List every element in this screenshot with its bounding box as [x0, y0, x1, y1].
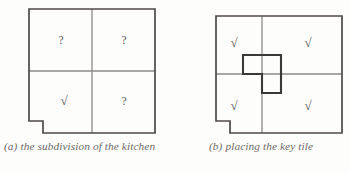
cell-label-b-0-0: √	[225, 36, 243, 49]
panel-b-caption: (b) placing the key tile	[175, 140, 350, 152]
figure-container: ? ? √ ? (a) the subdivision of the kitch…	[0, 0, 350, 173]
cell-label-a-1-0: √	[55, 94, 73, 107]
cell-label-b-0-1: √	[299, 36, 317, 49]
cell-label-a-0-0: ?	[52, 35, 70, 47]
cell-label-b-1-0: √	[225, 99, 243, 112]
figure-panel-b: √ √ √ √ (b) placing the key tile	[175, 0, 350, 173]
cell-label-a-0-1: ?	[115, 35, 133, 47]
grid-lines-b	[216, 16, 342, 133]
panel-a-caption: (a) the subdivision of the kitchen	[0, 140, 179, 152]
figure-panel-a: ? ? √ ? (a) the subdivision of the kitch…	[0, 0, 175, 173]
kitchen-subdivision-diagram-a: ? ? √ ?	[0, 0, 175, 140]
cell-label-b-1-1: √	[299, 99, 317, 112]
kitchen-subdivision-diagram-b: √ √ √ √	[175, 0, 350, 140]
grid-lines-a	[29, 9, 155, 133]
cell-label-a-1-1: ?	[115, 96, 133, 108]
